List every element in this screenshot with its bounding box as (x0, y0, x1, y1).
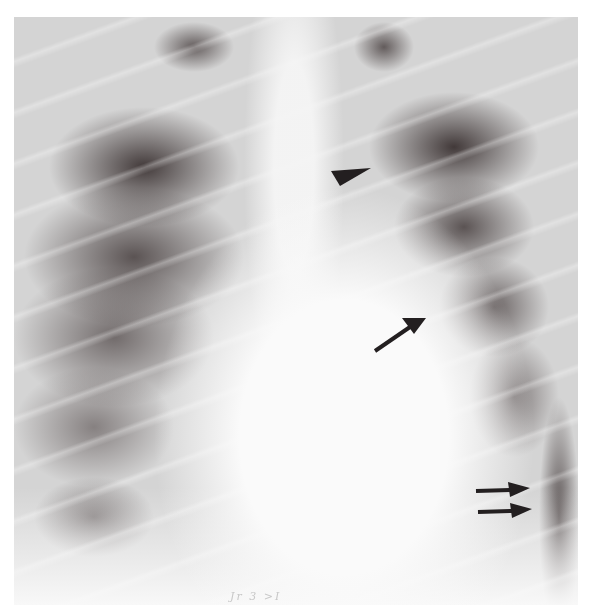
arrowhead-icon (331, 168, 371, 186)
annotation-layer (0, 0, 591, 614)
arrow-icon (375, 318, 426, 351)
double-arrow-icon (476, 482, 532, 518)
handwritten-marking: Jr 3 >I (230, 590, 281, 603)
